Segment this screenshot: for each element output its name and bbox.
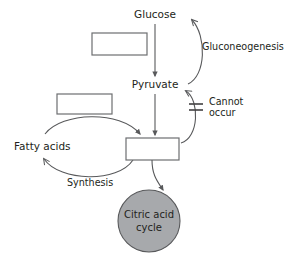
node-pyruvate-label: Pyruvate xyxy=(132,78,179,90)
pathway-diagram: Glucose Pyruvate Gluconeogenesis Cannot … xyxy=(0,0,291,267)
arrow-fatty-acids-to-center-box xyxy=(45,117,140,134)
citric-acid-cycle-label-line1: Citric acid xyxy=(124,209,174,220)
edge-label-cannot-occur-line1: Cannot xyxy=(209,96,244,107)
blank-box-center[interactable] xyxy=(126,138,179,160)
node-glucose-label: Glucose xyxy=(134,8,176,20)
citric-acid-cycle-label-line2: cycle xyxy=(136,222,162,233)
arrow-cannot-occur xyxy=(181,91,196,143)
arrow-center-box-to-citric-acid-cycle xyxy=(152,160,163,190)
edge-label-synthesis: Synthesis xyxy=(67,177,113,188)
diagram-canvas: Glucose Pyruvate Gluconeogenesis Cannot … xyxy=(0,0,291,267)
node-fatty-acids-label: Fatty acids xyxy=(14,140,71,152)
edge-label-gluconeogenesis: Gluconeogenesis xyxy=(202,41,284,52)
arrow-synthesis-to-fatty-acids xyxy=(44,159,133,177)
edge-label-cannot-occur-line2: occur xyxy=(209,107,235,118)
blank-box-top[interactable] xyxy=(92,33,147,55)
blank-box-middle-left[interactable] xyxy=(57,94,112,114)
arrow-gluconeogenesis xyxy=(188,20,202,84)
node-citric-acid-cycle[interactable] xyxy=(118,190,180,252)
